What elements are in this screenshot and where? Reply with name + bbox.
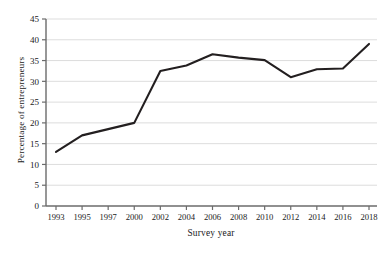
y-tick-label: 20: [30, 118, 40, 128]
y-axis-ticks: 051015202530354045: [30, 14, 46, 211]
y-tick-label: 5: [35, 180, 40, 190]
x-tick-label: 2016: [334, 212, 352, 222]
x-axis-ticks: 1993199519972000200220042006200820102012…: [47, 206, 377, 222]
x-axis-title: Survey year: [45, 228, 377, 238]
x-tick-label: 2002: [152, 212, 169, 222]
x-tick-label: 1995: [73, 212, 90, 222]
x-tick-label: 1997: [100, 212, 118, 222]
x-tick-label: 1993: [47, 212, 64, 222]
y-tick-label: 25: [30, 97, 40, 107]
gridlines: [46, 19, 377, 185]
line-chart-svg: 051015202530354045 199319951997200020022…: [0, 0, 385, 254]
x-tick-label: 2008: [230, 212, 247, 222]
x-tick-label: 2018: [360, 212, 377, 222]
y-tick-label: 30: [30, 77, 40, 87]
y-tick-label: 45: [30, 14, 40, 24]
x-tick-label: 2000: [126, 212, 143, 222]
chart-figure: Percentage of entrepreneurs 051015202530…: [0, 0, 385, 254]
y-tick-label: 10: [30, 160, 40, 170]
y-tick-label: 40: [30, 35, 40, 45]
x-tick-label: 2014: [308, 212, 326, 222]
y-tick-label: 35: [30, 56, 40, 66]
y-tick-label: 15: [30, 139, 40, 149]
plot-area: 051015202530354045 199319951997200020022…: [0, 0, 385, 254]
x-tick-label: 2006: [204, 212, 222, 222]
y-tick-label: 0: [35, 201, 40, 211]
x-tick-label: 2004: [178, 212, 196, 222]
x-tick-label: 2012: [282, 212, 299, 222]
x-tick-label: 2010: [256, 212, 273, 222]
